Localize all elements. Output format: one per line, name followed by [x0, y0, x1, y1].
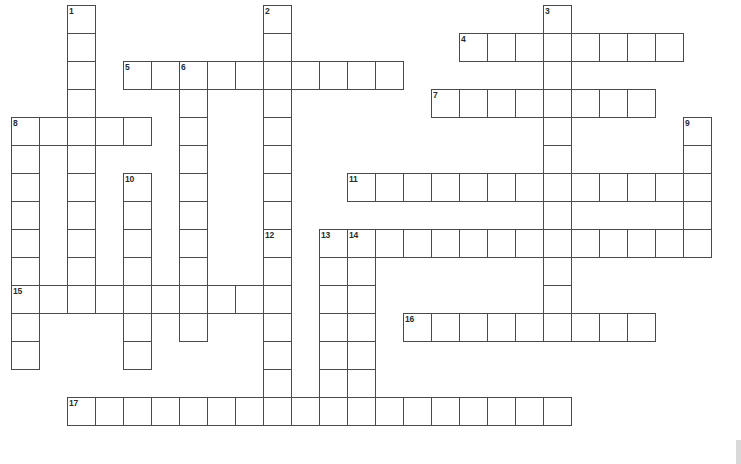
crossword-cell[interactable]	[515, 397, 544, 426]
crossword-cell[interactable]	[599, 89, 628, 118]
crossword-cell[interactable]: 16	[403, 313, 432, 342]
crossword-cell[interactable]	[571, 173, 600, 202]
crossword-cell[interactable]	[123, 117, 152, 146]
crossword-cell[interactable]	[263, 285, 292, 314]
crossword-cell[interactable]: 7	[431, 89, 460, 118]
crossword-cell[interactable]	[599, 313, 628, 342]
crossword-cell[interactable]	[543, 313, 572, 342]
crossword-cell[interactable]	[319, 61, 348, 90]
crossword-cell[interactable]	[67, 285, 96, 314]
crossword-cell[interactable]	[95, 285, 124, 314]
crossword-cell[interactable]	[291, 397, 320, 426]
crossword-cell[interactable]	[263, 369, 292, 398]
crossword-cell[interactable]	[95, 397, 124, 426]
crossword-cell[interactable]	[543, 117, 572, 146]
crossword-cell[interactable]: 15	[11, 285, 40, 314]
crossword-cell[interactable]: 12	[263, 229, 292, 258]
crossword-cell[interactable]	[207, 285, 236, 314]
crossword-cell[interactable]	[263, 61, 292, 90]
crossword-cell[interactable]	[515, 89, 544, 118]
crossword-cell[interactable]	[123, 341, 152, 370]
crossword-cell[interactable]: 17	[67, 397, 96, 426]
crossword-cell[interactable]	[627, 173, 656, 202]
crossword-cell[interactable]	[459, 313, 488, 342]
crossword-cell[interactable]: 5	[123, 61, 152, 90]
crossword-cell[interactable]	[263, 257, 292, 286]
crossword-cell[interactable]	[235, 397, 264, 426]
crossword-cell[interactable]	[571, 229, 600, 258]
crossword-cell[interactable]	[627, 89, 656, 118]
crossword-cell[interactable]	[11, 145, 40, 174]
crossword-cell[interactable]	[655, 173, 684, 202]
crossword-cell[interactable]: 2	[263, 5, 292, 34]
crossword-cell[interactable]	[151, 285, 180, 314]
crossword-cell[interactable]	[599, 229, 628, 258]
crossword-cell[interactable]: 1	[67, 5, 96, 34]
crossword-cell[interactable]	[543, 145, 572, 174]
crossword-cell[interactable]	[571, 33, 600, 62]
crossword-cell[interactable]	[291, 61, 320, 90]
crossword-cell[interactable]	[263, 33, 292, 62]
crossword-cell[interactable]	[67, 61, 96, 90]
crossword-cell[interactable]	[179, 229, 208, 258]
crossword-cell[interactable]	[263, 117, 292, 146]
crossword-cell[interactable]	[11, 341, 40, 370]
crossword-cell[interactable]	[263, 397, 292, 426]
crossword-cell[interactable]	[319, 257, 348, 286]
crossword-cell[interactable]	[67, 33, 96, 62]
crossword-cell[interactable]: 13	[319, 229, 348, 258]
crossword-cell[interactable]	[403, 173, 432, 202]
crossword-cell[interactable]: 9	[683, 117, 712, 146]
crossword-cell[interactable]	[543, 229, 572, 258]
crossword-cell[interactable]	[543, 89, 572, 118]
crossword-cell[interactable]	[599, 33, 628, 62]
crossword-cell[interactable]	[375, 229, 404, 258]
crossword-cell[interactable]	[179, 257, 208, 286]
crossword-cell[interactable]	[683, 201, 712, 230]
crossword-cell[interactable]	[515, 33, 544, 62]
crossword-cell[interactable]	[207, 397, 236, 426]
crossword-cell[interactable]	[263, 313, 292, 342]
crossword-cell[interactable]	[67, 257, 96, 286]
crossword-cell[interactable]	[487, 33, 516, 62]
crossword-cell[interactable]	[179, 89, 208, 118]
crossword-cell[interactable]	[11, 173, 40, 202]
crossword-cell[interactable]	[459, 229, 488, 258]
crossword-cell[interactable]	[151, 397, 180, 426]
crossword-cell[interactable]	[319, 285, 348, 314]
crossword-cell[interactable]	[39, 285, 68, 314]
crossword-cell[interactable]	[11, 229, 40, 258]
crossword-cell[interactable]	[431, 397, 460, 426]
crossword-cell[interactable]	[375, 397, 404, 426]
crossword-cell[interactable]	[123, 201, 152, 230]
crossword-cell[interactable]	[571, 89, 600, 118]
crossword-cell[interactable]	[599, 173, 628, 202]
crossword-cell[interactable]	[319, 341, 348, 370]
crossword-cell[interactable]	[179, 397, 208, 426]
crossword-cell[interactable]: 4	[459, 33, 488, 62]
crossword-cell[interactable]	[431, 229, 460, 258]
crossword-cell[interactable]	[459, 173, 488, 202]
crossword-cell[interactable]	[319, 397, 348, 426]
crossword-cell[interactable]	[543, 173, 572, 202]
crossword-cell[interactable]	[543, 285, 572, 314]
crossword-cell[interactable]	[263, 173, 292, 202]
crossword-cell[interactable]	[123, 397, 152, 426]
crossword-cell[interactable]	[487, 89, 516, 118]
crossword-cell[interactable]	[263, 341, 292, 370]
crossword-cell[interactable]	[543, 33, 572, 62]
crossword-cell[interactable]: 14	[347, 229, 376, 258]
crossword-cell[interactable]	[151, 61, 180, 90]
crossword-cell[interactable]	[179, 285, 208, 314]
crossword-cell[interactable]	[263, 145, 292, 174]
crossword-cell[interactable]: 11	[347, 173, 376, 202]
crossword-cell[interactable]	[179, 201, 208, 230]
crossword-cell[interactable]	[487, 229, 516, 258]
crossword-cell[interactable]	[655, 33, 684, 62]
crossword-cell[interactable]	[123, 285, 152, 314]
crossword-cell[interactable]	[347, 285, 376, 314]
crossword-cell[interactable]	[627, 33, 656, 62]
crossword-cell[interactable]	[627, 229, 656, 258]
crossword-cell[interactable]	[179, 173, 208, 202]
crossword-cell[interactable]	[655, 229, 684, 258]
